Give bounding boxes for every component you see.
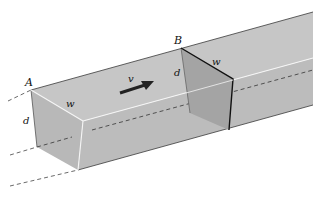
extension-dashed-line-bottom — [10, 170, 78, 186]
label-a: A — [24, 76, 33, 89]
label-width-section: w — [212, 56, 221, 67]
label-b: B — [173, 34, 182, 47]
channel-diagram: A B v w d w d — [0, 0, 323, 199]
label-velocity: v — [128, 73, 134, 84]
label-width-front: w — [66, 98, 75, 109]
extension-dashed-line-mid — [10, 147, 37, 155]
label-depth-section: d — [174, 67, 180, 78]
label-depth-front: d — [23, 115, 29, 126]
extension-dashed-line-top — [8, 90, 31, 101]
